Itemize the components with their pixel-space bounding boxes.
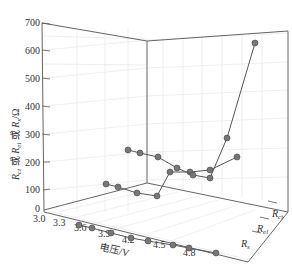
3d-line-chart: 700 600 500 400 300 200 100 0 3.0 3.3 3.… — [0, 0, 292, 268]
series-rel — [103, 154, 240, 199]
svg-text:3.3: 3.3 — [53, 217, 66, 228]
svg-text:Rel: Rel — [256, 223, 268, 236]
svg-text:Rct: Rct — [271, 208, 284, 221]
svg-text:4.5: 4.5 — [153, 239, 166, 250]
svg-text:600: 600 — [25, 45, 40, 56]
svg-text:100: 100 — [25, 184, 40, 195]
svg-text:200: 200 — [25, 157, 40, 168]
left-wall-grid — [45, 28, 147, 212]
svg-text:300: 300 — [25, 129, 40, 140]
svg-text:Rs: Rs — [240, 238, 250, 251]
svg-text:700: 700 — [25, 17, 40, 28]
y-tick-labels: 700 600 500 400 300 200 100 0 — [25, 17, 40, 214]
svg-text:Rct 或 Rel 或 Rs/Ω: Rct 或 Rel 或 Rs/Ω — [10, 109, 23, 181]
svg-text:400: 400 — [25, 101, 40, 112]
y-axis-label: Rct 或 Rel 或 Rs/Ω — [10, 109, 23, 181]
svg-text:500: 500 — [25, 73, 40, 84]
svg-text:3.0: 3.0 — [33, 213, 46, 224]
back-wall-grid — [42, 36, 147, 65]
